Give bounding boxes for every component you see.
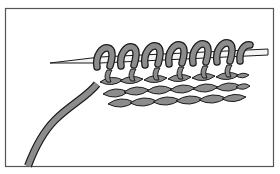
knitting-illustration <box>0 0 280 174</box>
